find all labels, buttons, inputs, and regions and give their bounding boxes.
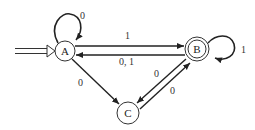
automaton-diagram: 0 1 0, 1 1 0 0 0 A B C [0,0,255,130]
start-arrow [15,45,55,57]
label-B-C: 0 [154,68,159,79]
transition-A-A: 0 [55,10,85,43]
state-C-label: C [124,107,131,119]
transition-B-C: 0 [137,59,186,103]
state-C: C [117,102,139,124]
transition-B-A: 0, 1 [76,55,185,67]
label-C-B: 0 [170,85,175,96]
state-B-label: B [193,43,200,55]
transition-C-B: 0 [140,63,190,109]
transition-A-C: 0 [72,59,119,104]
transition-A-B: 1 [75,30,184,46]
label-A-C: 0 [78,77,83,88]
label-A-B: 1 [125,30,130,41]
state-A: A [55,41,75,61]
state-B: B [185,37,209,61]
transition-B-B: 1 [208,36,246,59]
state-A-label: A [61,45,69,57]
label-B-A: 0, 1 [119,56,134,67]
label-B-B: 1 [241,44,246,55]
label-A-A: 0 [80,10,85,21]
